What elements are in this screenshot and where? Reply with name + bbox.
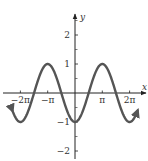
chart: −2π−ππ2π21−1−2yx (0, 0, 148, 161)
y-tick-label: 2 (64, 30, 70, 40)
x-tick-label: −π (41, 95, 55, 105)
y-tick-label: 1 (64, 59, 70, 69)
x-axis-label: x (142, 82, 147, 92)
y-tick-label: −1 (57, 117, 70, 127)
y-tick-label: −2 (57, 146, 70, 156)
y-axis-label: y (79, 12, 86, 22)
x-tick-label: 2π (124, 95, 136, 105)
x-tick-label: −2π (11, 95, 30, 105)
x-tick-label: π (99, 95, 105, 105)
